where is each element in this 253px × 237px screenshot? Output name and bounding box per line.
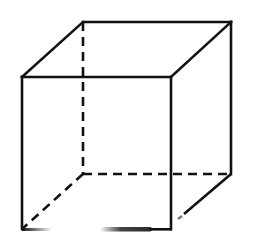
bottom-right-diagonal-edge xyxy=(184,174,231,214)
hidden-dashed-edges xyxy=(22,22,231,229)
partial-edges xyxy=(22,174,231,232)
dashed-edge-back-bottom-left-to-front-bottom-left xyxy=(22,174,83,229)
cube-diagram xyxy=(0,0,253,237)
solid-edge-front-top-left-to-back-top-left xyxy=(22,22,83,77)
bottom-right-diagonal-dot xyxy=(178,216,182,219)
cube-svg xyxy=(0,0,253,237)
bottom-front-edge-smudge xyxy=(100,227,152,232)
bottom-front-edge-right xyxy=(150,228,172,231)
solid-edges xyxy=(22,22,231,229)
bottom-front-edge-left xyxy=(22,228,52,231)
solid-edge-front-top-right-to-back-top-right xyxy=(171,22,231,77)
